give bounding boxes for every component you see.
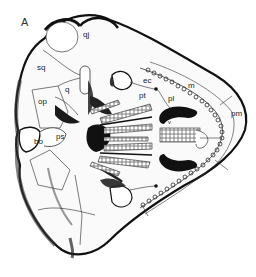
label-v: v (168, 119, 171, 125)
label-ec: ec (143, 77, 151, 85)
panel-label: A (21, 16, 28, 28)
label-pt: pt (139, 92, 146, 100)
label-pm: pm (231, 110, 242, 118)
label-op: op (38, 98, 47, 106)
label-sq: sq (37, 64, 45, 72)
label-ps: ps (56, 133, 64, 141)
label-qj: qj (83, 31, 89, 39)
label-q: q (65, 86, 69, 94)
label-pl: pl (168, 95, 174, 103)
label-m: m (188, 82, 195, 90)
label-bo: bo (34, 138, 43, 146)
